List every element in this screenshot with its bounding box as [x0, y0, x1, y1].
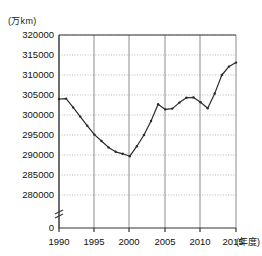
- y-tick-label: 320000: [22, 29, 54, 40]
- data-point: [214, 92, 216, 94]
- data-point: [86, 125, 88, 127]
- x-tick-label: 1990: [48, 236, 69, 247]
- data-point: [235, 61, 237, 63]
- data-point: [129, 155, 131, 157]
- data-point: [228, 65, 230, 67]
- data-point: [79, 115, 81, 117]
- data-point: [206, 107, 208, 109]
- data-point: [150, 120, 152, 122]
- y-tick-label: 285000: [22, 169, 54, 180]
- y-tick-label: 290000: [22, 149, 54, 160]
- data-point: [93, 133, 95, 135]
- y-tick-label: 300000: [22, 109, 54, 120]
- data-point: [107, 146, 109, 148]
- data-point: [164, 108, 166, 110]
- data-point: [100, 140, 102, 142]
- data-point: [122, 153, 124, 155]
- x-tick-label: 2000: [118, 236, 139, 247]
- data-point: [185, 97, 187, 99]
- x-axis-unit-label: (年度): [236, 236, 260, 247]
- data-point: [171, 107, 173, 109]
- y-tick-label: 280000: [22, 189, 54, 200]
- data-point: [58, 98, 60, 100]
- y-tick-label: 310000: [22, 69, 54, 80]
- y-tick-labels: 320000 315000 310000 305000 300000 29500…: [22, 29, 54, 233]
- chart-svg: 320000 315000 310000 305000 300000 29500…: [0, 0, 262, 256]
- chart-figure: (万km): [0, 0, 262, 256]
- x-tick-label: 2005: [154, 236, 175, 247]
- plot-area: 320000 315000 310000 305000 300000 29500…: [0, 0, 262, 256]
- data-point: [143, 134, 145, 136]
- data-point: [192, 96, 194, 98]
- x-tick-label: 2010: [189, 236, 210, 247]
- y-tick-label-zero: 0: [49, 222, 54, 233]
- data-point: [199, 101, 201, 103]
- vertical-gridlines: [59, 35, 236, 228]
- data-point: [221, 74, 223, 76]
- data-point: [157, 103, 159, 105]
- y-tick-label: 305000: [22, 89, 54, 100]
- y-tick-label: 295000: [22, 129, 54, 140]
- horizontal-gridlines: [59, 35, 236, 195]
- data-point: [136, 145, 138, 147]
- data-point: [72, 106, 74, 108]
- x-tick-labels: 1990 1995 2000 2005 2010 2015 (年度): [48, 236, 260, 247]
- x-tick-label: 1995: [83, 236, 104, 247]
- data-point: [114, 151, 116, 153]
- axis-lines: [59, 35, 236, 228]
- data-point: [65, 97, 67, 99]
- data-series: [58, 61, 237, 157]
- data-point: [178, 101, 180, 103]
- y-tick-label: 315000: [22, 49, 54, 60]
